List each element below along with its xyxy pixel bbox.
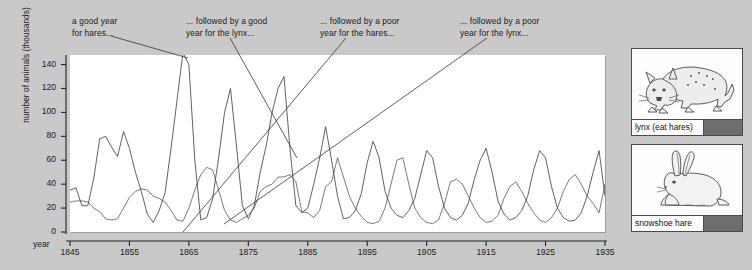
x-tick-label: 1935 bbox=[585, 247, 625, 257]
x-tick-label: 1905 bbox=[407, 247, 447, 257]
y-tick-label: 100 bbox=[30, 106, 56, 116]
legend-swatch-lynx bbox=[703, 120, 742, 135]
ann-good-year-lynx: ... followed by a good year for the lynx… bbox=[186, 16, 267, 39]
legend: lynx (eat hares) bbox=[631, 48, 743, 240]
plot-area bbox=[70, 55, 605, 232]
y-tick-label: 60 bbox=[30, 154, 56, 164]
x-tick-label: 1875 bbox=[228, 247, 268, 257]
x-tick-label: 1855 bbox=[109, 247, 149, 257]
legend-swatch-hare bbox=[703, 216, 742, 231]
ann-poor-year-lynx: ... followed by a poor year for the lynx… bbox=[460, 16, 539, 39]
legend-label-hare: snowshoe hare bbox=[632, 216, 703, 231]
y-tick-label: 0 bbox=[30, 226, 56, 236]
legend-label-lynx: lynx (eat hares) bbox=[632, 120, 703, 135]
x-tick-label: 1895 bbox=[347, 247, 387, 257]
lynx-illustration bbox=[632, 49, 742, 120]
ann-poor-year-hares: ... followed by a poor year for the hare… bbox=[320, 16, 399, 39]
x-tick-label: 1845 bbox=[50, 247, 90, 257]
x-tick-label: 1925 bbox=[526, 247, 566, 257]
screenshot-root: number of animals (thousands) 0204060801… bbox=[0, 0, 752, 270]
y-tick-label: 120 bbox=[30, 82, 56, 92]
x-tick-label: 1865 bbox=[169, 247, 209, 257]
y-tick-label: 20 bbox=[30, 202, 56, 212]
y-axis-label: number of animals (thousands) bbox=[21, 0, 31, 150]
x-tick-label: 1885 bbox=[288, 247, 328, 257]
lynx-hare-population-chart: number of animals (thousands) 0204060801… bbox=[0, 0, 620, 270]
ann-good-year-hares: a good year for hares... bbox=[72, 16, 117, 39]
x-axis-label: year bbox=[33, 239, 50, 249]
y-tick-label: 140 bbox=[30, 59, 56, 69]
legend-card-hare[interactable]: snowshoe hare bbox=[631, 144, 743, 232]
x-tick-label: 1915 bbox=[466, 247, 506, 257]
hare-illustration bbox=[632, 145, 742, 216]
y-tick-label: 40 bbox=[30, 178, 56, 188]
legend-card-lynx[interactable]: lynx (eat hares) bbox=[631, 48, 743, 136]
y-tick-label: 80 bbox=[30, 130, 56, 140]
